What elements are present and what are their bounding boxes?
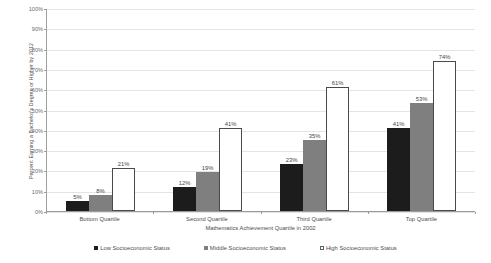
bar-slot: 21% <box>112 9 135 211</box>
bar-value-label: 41% <box>225 121 237 127</box>
legend-swatch-icon <box>204 246 208 250</box>
bar-value-label: 35% <box>309 133 321 139</box>
legend-item[interactable]: Middle Socioeconomic Status <box>204 245 286 251</box>
legend-item[interactable]: Low Socioeconomic Status <box>94 245 170 251</box>
y-axis-tick-label: 90% <box>32 26 43 32</box>
bar-value-label: 74% <box>439 54 451 60</box>
bar-slot: 41% <box>387 9 410 211</box>
x-axis-category-label: Third Quartile <box>261 216 368 222</box>
bar[interactable] <box>280 164 303 211</box>
bar-groups: 5%8%21%12%19%41%23%35%61%41%53%74% <box>47 9 475 211</box>
y-axis-tick-label: 20% <box>32 168 43 174</box>
y-axis-tick-label: 60% <box>32 87 43 93</box>
bar[interactable] <box>410 103 433 211</box>
bar-group: 41%53%74% <box>368 9 475 211</box>
bar[interactable] <box>196 172 219 211</box>
legend-item-label: High Socioeconomic Status <box>326 245 397 251</box>
bar-value-label: 53% <box>416 96 428 102</box>
bar-value-label: 21% <box>118 161 130 167</box>
bar-slot: 41% <box>219 9 242 211</box>
bar[interactable] <box>89 195 112 211</box>
bar[interactable] <box>112 168 135 211</box>
y-axis-tick-label: 0% <box>35 209 43 215</box>
bar[interactable] <box>219 128 242 211</box>
bar-value-label: 8% <box>96 188 104 194</box>
plot-area: 0%10%20%30%40%50%60%70%80%90%100% 5%8%21… <box>46 9 475 212</box>
y-axis-tick-label: 80% <box>32 47 43 53</box>
legend-item-label: Middle Socioeconomic Status <box>210 245 286 251</box>
bar-value-label: 61% <box>332 80 344 86</box>
bar-group: 23%35%61% <box>261 9 368 211</box>
bar[interactable] <box>66 201 89 211</box>
x-axis-category-labels: Bottom QuartileSecond QuartileThird Quar… <box>46 216 475 222</box>
bar-slot: 35% <box>303 9 326 211</box>
x-axis-tick-mark <box>475 212 476 214</box>
bar[interactable] <box>303 140 326 211</box>
bar-group: 5%8%21% <box>47 9 154 211</box>
x-axis-title: Mathematics Achievement Quartile in 2002 <box>46 225 475 231</box>
bar-slot: 61% <box>326 9 349 211</box>
bar-slot: 53% <box>410 9 433 211</box>
x-axis-tick-mark <box>46 212 47 214</box>
bar[interactable] <box>387 128 410 211</box>
legend-swatch-icon <box>94 246 98 250</box>
y-axis-tick-label: 10% <box>32 189 43 195</box>
x-axis-category-label: Second Quartile <box>153 216 260 222</box>
x-axis-tick-mark <box>261 212 262 214</box>
bar-slot: 23% <box>280 9 303 211</box>
y-axis-tick-label: 30% <box>32 148 43 154</box>
bar-slot: 12% <box>173 9 196 211</box>
x-axis-category-label: Bottom Quartile <box>46 216 153 222</box>
y-axis-tick-label: 100% <box>29 6 43 12</box>
bar-value-label: 23% <box>286 157 298 163</box>
legend-item-label: Low Socioeconomic Status <box>100 245 170 251</box>
bar-slot: 19% <box>196 9 219 211</box>
bar-slot: 8% <box>89 9 112 211</box>
bar-value-label: 41% <box>393 121 405 127</box>
bar-value-label: 5% <box>73 194 81 200</box>
bar[interactable] <box>433 61 456 211</box>
bar-value-label: 19% <box>202 165 214 171</box>
y-axis-tick-label: 50% <box>32 108 43 114</box>
bar-value-label: 12% <box>179 180 191 186</box>
bar[interactable] <box>173 187 196 211</box>
x-axis-tick-mark <box>368 212 369 214</box>
bar[interactable] <box>326 87 349 211</box>
legend-swatch-icon <box>320 246 324 250</box>
bar-slot: 5% <box>66 9 89 211</box>
bar-group: 12%19%41% <box>154 9 261 211</box>
x-axis-category-label: Top Quartile <box>368 216 475 222</box>
x-axis-tick-mark <box>153 212 154 214</box>
chart-legend: Low Socioeconomic StatusMiddle Socioecon… <box>0 245 491 251</box>
y-axis-tick-label: 40% <box>32 128 43 134</box>
y-axis-tick-label: 70% <box>32 67 43 73</box>
legend-item[interactable]: High Socioeconomic Status <box>320 245 397 251</box>
bar-chart: Percent Earning a Bachelor's Degree or H… <box>0 0 491 263</box>
bar-slot: 74% <box>433 9 456 211</box>
